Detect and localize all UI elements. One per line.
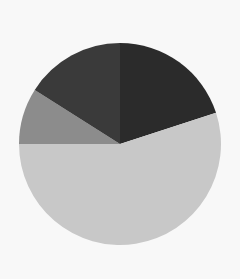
pie-chart-svg: [0, 0, 240, 279]
pie-slices: [19, 43, 221, 245]
pie-chart: [0, 0, 240, 279]
